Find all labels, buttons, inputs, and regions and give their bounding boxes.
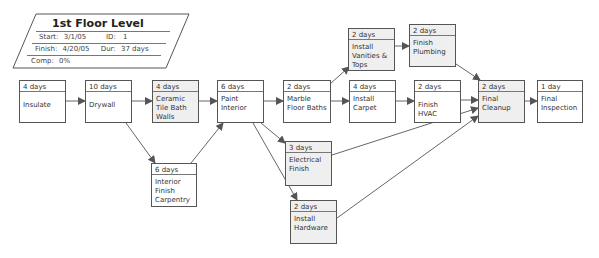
task-node-cleanup[interactable]: 2 daysFinal Cleanup	[478, 80, 525, 123]
link-hardware-to-cleanup	[337, 116, 478, 218]
summary-finish-row: Finish: 4/20/05 Dur: 37 days	[35, 45, 149, 53]
summary-comp-row: Comp: 0%	[31, 57, 70, 65]
task-duration: 2 days	[291, 201, 336, 212]
task-node-carpet[interactable]: 4 daysInstall Carpet	[349, 80, 396, 123]
task-duration: 1 day	[538, 81, 582, 92]
divider	[36, 31, 170, 32]
task-node-interior[interactable]: 6 daysInterior Finish Carpentry	[151, 163, 197, 207]
task-name: Marble Floor Baths	[284, 92, 330, 116]
task-name: Install Carpet	[350, 92, 395, 116]
task-node-hvac[interactable]: 2 daysFinish HVAC	[414, 80, 461, 123]
task-name: Insulate	[20, 92, 65, 113]
task-node-drywall[interactable]: 10 daysDrywall	[85, 80, 132, 123]
task-name: Ceramic Tile Bath Walls	[153, 92, 198, 125]
finish-label: Finish:	[35, 45, 57, 53]
task-duration: 4 days	[153, 81, 198, 92]
task-node-hardware[interactable]: 2 daysInstall Hardware	[290, 200, 337, 244]
task-name: Interior Finish Carpentry	[152, 175, 196, 208]
task-name: Drywall	[86, 92, 131, 113]
divider	[32, 43, 166, 44]
task-duration: 2 days	[415, 81, 460, 92]
task-duration: 10 days	[86, 81, 131, 92]
summary-start-row: Start: 3/1/05 ID: 1	[39, 33, 127, 41]
dur-value: 37 days	[121, 45, 149, 53]
task-duration: 4 days	[350, 81, 395, 92]
start-label: Start:	[39, 33, 58, 41]
task-node-inspection[interactable]: 1 dayFinal Inspection	[537, 80, 583, 123]
task-duration: 2 days	[479, 81, 524, 92]
task-name: Finish HVAC	[415, 92, 460, 122]
task-node-plumbing[interactable]: 2 daysFinish Plumbing	[409, 24, 456, 67]
link-marble-to-vanities	[330, 67, 349, 84]
task-duration: 6 days	[152, 164, 196, 175]
task-node-electrical[interactable]: 3 daysElectrical Finish	[285, 141, 332, 186]
start-value: 3/1/05	[64, 33, 104, 41]
link-paint-to-electrical	[261, 123, 285, 143]
summary-title: 1st Floor Level	[52, 17, 144, 30]
task-name: Finish Plumbing	[410, 36, 455, 60]
comp-value: 0%	[59, 57, 70, 65]
task-duration: 2 days	[410, 25, 455, 36]
comp-label: Comp:	[31, 57, 54, 65]
link-drywall-to-interior	[126, 123, 155, 163]
id-value: 1	[123, 33, 127, 41]
task-name: Final Cleanup	[479, 92, 524, 116]
summary-task-box[interactable]: 1st Floor Level Start: 3/1/05 ID: 1 Fini…	[12, 13, 190, 69]
link-plumbing-to-cleanup	[456, 64, 480, 80]
dur-label: Dur:	[101, 45, 116, 53]
task-duration: 2 days	[284, 81, 330, 92]
task-node-paint[interactable]: 6 daysPaint Interior	[217, 80, 264, 123]
id-label: ID:	[106, 33, 116, 41]
task-node-vanities[interactable]: 2 daysInstall Vanities & Tops	[348, 28, 395, 71]
task-duration: 4 days	[20, 81, 65, 92]
task-node-ceramic[interactable]: 4 daysCeramic Tile Bath Walls	[152, 80, 199, 123]
task-node-marble[interactable]: 2 daysMarble Floor Baths	[283, 80, 331, 123]
task-duration: 2 days	[349, 29, 394, 40]
network-diagram: 1st Floor Level Start: 3/1/05 ID: 1 Fini…	[0, 0, 599, 258]
task-duration: 3 days	[286, 142, 331, 153]
task-name: Final Inspection	[538, 92, 582, 116]
link-interior-to-paint	[191, 123, 223, 163]
task-name: Install Vanities & Tops	[349, 40, 394, 73]
task-name: Install Hardware	[291, 212, 336, 236]
task-duration: 6 days	[218, 81, 263, 92]
task-node-insulate[interactable]: 4 daysInsulate	[19, 80, 66, 123]
divider	[27, 55, 161, 56]
task-name: Electrical Finish	[286, 153, 331, 177]
finish-value: 4/20/05	[63, 45, 99, 53]
task-name: Paint Interior	[218, 92, 263, 116]
